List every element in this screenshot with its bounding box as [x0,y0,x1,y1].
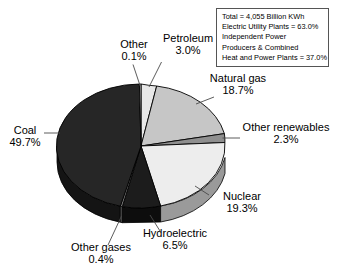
label-other-name: Other [110,38,158,50]
label-coal-name: Coal [4,124,46,136]
note-line-independent: Independent Power [222,32,324,42]
leader-other [133,65,140,87]
label-other-pct: 0.1% [110,50,158,62]
label-petroleum-pct: 3.0% [152,44,224,56]
pie-wall-hydroelectric [122,206,160,223]
label-hydroelectric: Hydroelectric 6.5% [133,227,217,252]
label-hydroelectric-pct: 6.5% [133,239,217,251]
label-natural-gas-name: Natural gas [198,72,278,84]
note-line-total: Total = 4,055 Billion KWh [222,12,324,22]
label-other-gases-name: Other gases [62,241,140,253]
note-line-heatpower: Heat and Power Plants = 37.0% [222,53,324,63]
leader-petroleum [149,62,162,87]
label-other-renewables: Other renewables 2.3% [238,121,334,146]
label-other: Other 0.1% [110,38,158,63]
label-nuclear: Nuclear 19.3% [210,190,274,215]
note-line-utility: Electric Utility Plants = 63.0% [222,22,324,32]
label-hydroelectric-name: Hydroelectric [133,227,217,239]
label-coal: Coal 49.7% [4,124,46,149]
note-line-producers: Producers & Combined [222,43,324,53]
label-other-renewables-pct: 2.3% [238,133,334,145]
label-petroleum: Petroleum 3.0% [152,32,224,57]
label-nuclear-name: Nuclear [210,190,274,202]
leader-natural-gas [196,97,214,104]
summary-note-box: Total = 4,055 Billion KWh Electric Utili… [216,8,329,67]
label-other-gases-pct: 0.4% [62,253,140,265]
label-natural-gas: Natural gas 18.7% [198,72,278,97]
label-other-renewables-name: Other renewables [238,121,334,133]
label-other-gases: Other gases 0.4% [62,241,140,266]
label-petroleum-name: Petroleum [152,32,224,44]
label-coal-pct: 49.7% [4,136,46,148]
label-nuclear-pct: 19.3% [210,202,274,214]
label-natural-gas-pct: 18.7% [198,84,278,96]
pie-chart-figure: Total = 4,055 Billion KWh Electric Utili… [0,0,337,276]
